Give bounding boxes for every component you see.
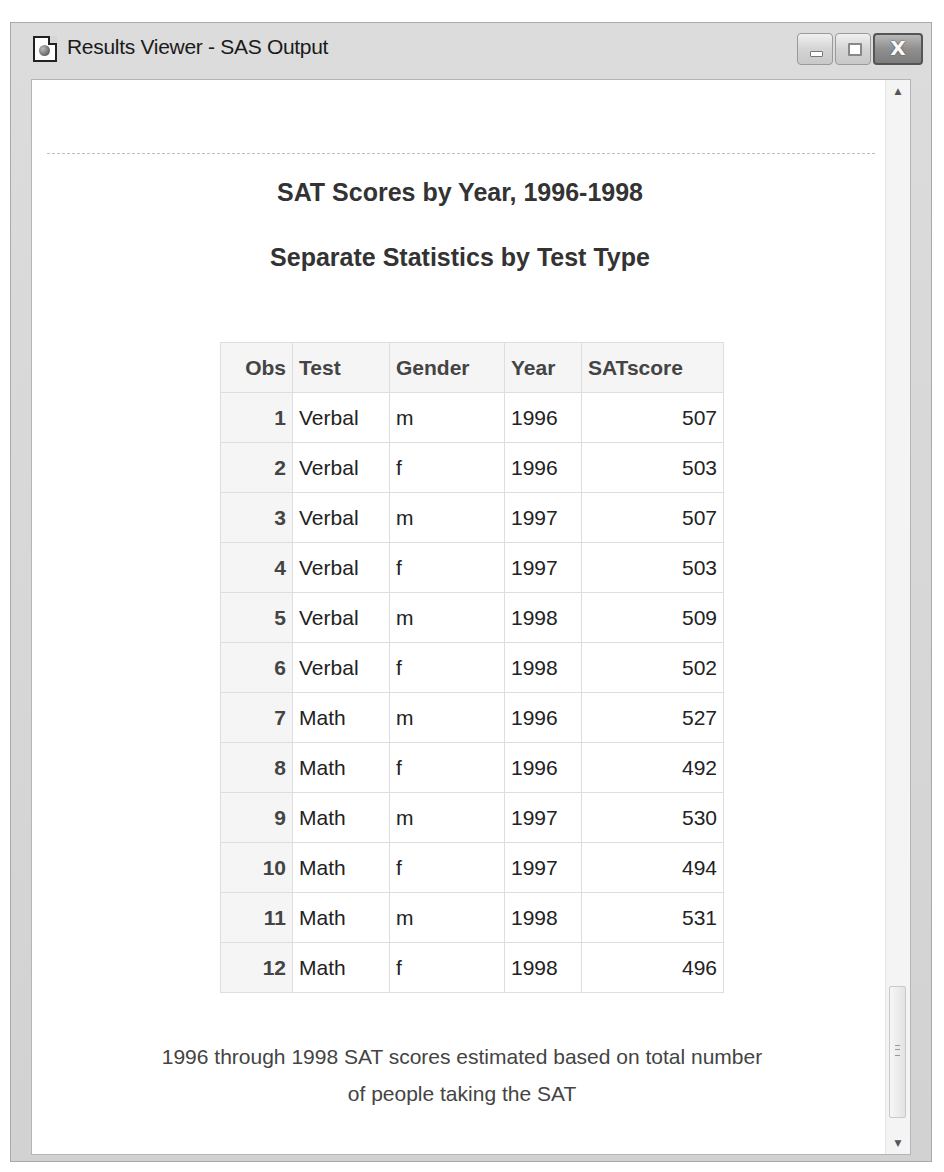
title-bar[interactable]: Results Viewer - SAS Output X [11,23,931,79]
page-separator [47,153,875,154]
cell-year: 1997 [505,543,582,593]
cell-satscore: 531 [582,893,724,943]
cell-year: 1996 [505,443,582,493]
cell-gender: f [390,643,505,693]
cell-year: 1996 [505,743,582,793]
cell-obs: 2 [221,443,293,493]
cell-satscore: 496 [582,943,724,993]
cell-test: Verbal [293,593,390,643]
report-subtitle: Separate Statistics by Test Type [32,243,888,272]
cell-test: Verbal [293,543,390,593]
scroll-down-arrow-icon[interactable]: ▼ [886,1138,910,1148]
table-row: 9 Math m 1997 530 [221,793,724,843]
scroll-up-arrow-icon[interactable]: ▲ [886,86,910,96]
cell-obs: 7 [221,693,293,743]
cell-gender: f [390,843,505,893]
column-header-year: Year [505,343,582,393]
cell-gender: m [390,793,505,843]
cell-gender: m [390,893,505,943]
maximize-button[interactable] [835,33,871,65]
cell-test: Math [293,693,390,743]
cell-test: Math [293,793,390,843]
table-row: 6 Verbal f 1998 502 [221,643,724,693]
vertical-scrollbar[interactable]: ▲ ▼ [885,80,910,1154]
cell-obs: 4 [221,543,293,593]
footnote-line-1: 1996 through 1998 SAT scores estimated b… [52,1038,872,1075]
cell-satscore: 527 [582,693,724,743]
cell-gender: m [390,593,505,643]
table-row: 7 Math m 1996 527 [221,693,724,743]
cell-year: 1997 [505,843,582,893]
cell-gender: f [390,943,505,993]
cell-satscore: 507 [582,493,724,543]
cell-test: Math [293,893,390,943]
cell-obs: 9 [221,793,293,843]
sas-results-icon [33,36,57,62]
table-row: 8 Math f 1996 492 [221,743,724,793]
window-title: Results Viewer - SAS Output [67,35,328,59]
cell-test: Math [293,843,390,893]
cell-test: Math [293,943,390,993]
cell-test: Verbal [293,443,390,493]
cell-satscore: 503 [582,443,724,493]
cell-year: 1998 [505,643,582,693]
results-viewer-window: Results Viewer - SAS Output X SAT Scores… [10,22,932,1162]
report-title: SAT Scores by Year, 1996-1998 [32,178,888,207]
cell-satscore: 492 [582,743,724,793]
cell-gender: f [390,543,505,593]
cell-gender: m [390,493,505,543]
cell-gender: f [390,443,505,493]
cell-obs: 3 [221,493,293,543]
table-row: 1 Verbal m 1996 507 [221,393,724,443]
minimize-icon [810,51,823,57]
table-header-row: Obs Test Gender Year SATscore [221,343,724,393]
cell-satscore: 507 [582,393,724,443]
cell-test: Verbal [293,393,390,443]
cell-test: Verbal [293,493,390,543]
table-row: 12 Math f 1998 496 [221,943,724,993]
cell-year: 1997 [505,793,582,843]
cell-obs: 8 [221,743,293,793]
column-header-obs: Obs [221,343,293,393]
cell-year: 1996 [505,393,582,443]
column-header-gender: Gender [390,343,505,393]
cell-obs: 11 [221,893,293,943]
sat-scores-table: Obs Test Gender Year SATscore 1 Verbal m… [220,342,724,993]
cell-satscore: 530 [582,793,724,843]
table-row: 11 Math m 1998 531 [221,893,724,943]
cell-gender: f [390,743,505,793]
minimize-button[interactable] [797,33,833,65]
cell-year: 1998 [505,893,582,943]
footnote: 1996 through 1998 SAT scores estimated b… [52,1038,872,1112]
cell-gender: m [390,693,505,743]
cell-gender: m [390,393,505,443]
scrollbar-thumb[interactable] [889,986,906,1118]
table-row: 10 Math f 1997 494 [221,843,724,893]
cell-year: 1997 [505,493,582,543]
column-header-satscore: SATscore [582,343,724,393]
cell-satscore: 502 [582,643,724,693]
cell-year: 1998 [505,943,582,993]
maximize-icon [848,43,862,56]
cell-year: 1998 [505,593,582,643]
cell-satscore: 494 [582,843,724,893]
grip-icon [895,1045,900,1056]
footnote-line-2: of people taking the SAT [52,1075,872,1112]
cell-year: 1996 [505,693,582,743]
cell-satscore: 503 [582,543,724,593]
cell-obs: 10 [221,843,293,893]
table-row: 3 Verbal m 1997 507 [221,493,724,543]
output-pane: SAT Scores by Year, 1996-1998 Separate S… [31,79,911,1155]
cell-obs: 12 [221,943,293,993]
table-row: 5 Verbal m 1998 509 [221,593,724,643]
close-icon: X [875,36,921,60]
cell-obs: 1 [221,393,293,443]
cell-satscore: 509 [582,593,724,643]
cell-obs: 6 [221,643,293,693]
cell-obs: 5 [221,593,293,643]
cell-test: Math [293,743,390,793]
close-button[interactable]: X [873,33,923,65]
column-header-test: Test [293,343,390,393]
table-row: 2 Verbal f 1996 503 [221,443,724,493]
table-row: 4 Verbal f 1997 503 [221,543,724,593]
